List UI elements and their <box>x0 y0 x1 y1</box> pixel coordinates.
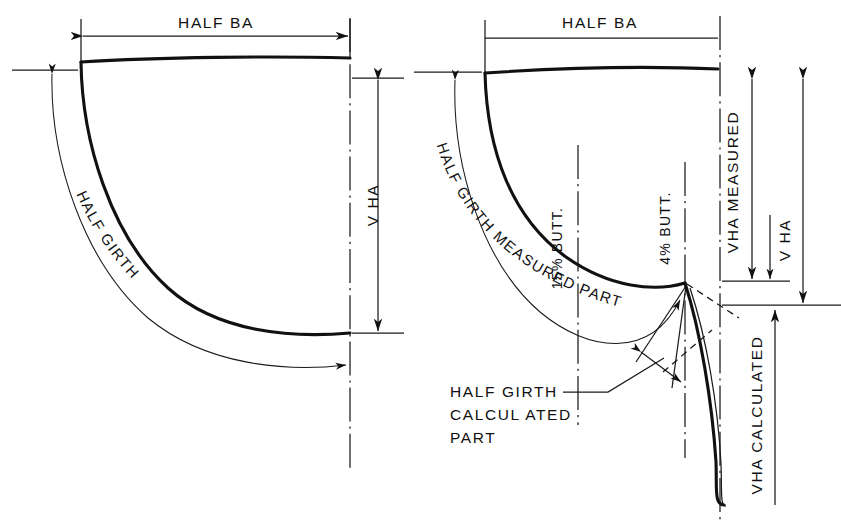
technical-drawing: HALF BA V HA HALF GIRTH <box>0 0 841 528</box>
diagram-page: HALF BA V HA HALF GIRTH <box>0 0 841 528</box>
calculated-ray-left <box>636 286 686 362</box>
right-hull-deck-line <box>485 68 718 73</box>
right-half-ba-label: HALF BA <box>562 14 638 31</box>
right-hull-calculated-profile <box>685 283 724 505</box>
left-half-ba-label: HALF BA <box>178 14 254 31</box>
left-vha-label: V HA <box>364 184 381 227</box>
vha-calculated-label: VHA CALCULATED <box>748 335 765 494</box>
right-panel: HALF BA 15% BUTT. 4% BUTT. VHA MEASURED … <box>414 14 841 522</box>
left-hull-profile <box>81 57 350 62</box>
left-panel: HALF BA V HA HALF GIRTH <box>12 14 404 470</box>
half-girth-calculated-line2: CALCUL ATED <box>450 406 572 423</box>
vha-measured-label: VHA MEASURED <box>724 111 741 253</box>
half-girth-calculated-line1: HALF GIRTH <box>450 383 558 400</box>
right-vha-label: V HA <box>776 219 793 262</box>
half-girth-calculated-line3: PART <box>450 429 496 446</box>
butt-4-label: 4% BUTT. <box>657 191 673 264</box>
left-hull-bilge-curve <box>81 62 350 335</box>
